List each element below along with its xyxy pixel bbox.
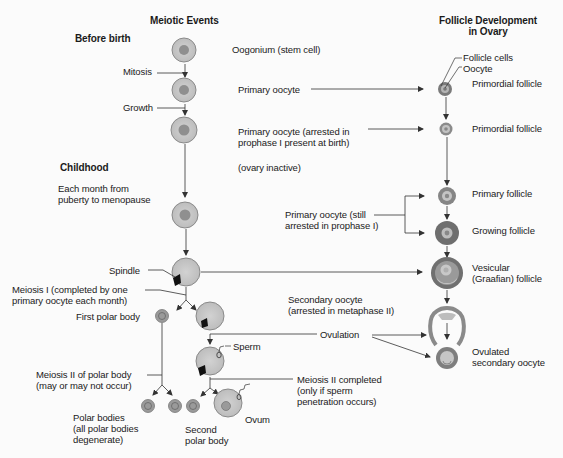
label-primary-oocyte-still-line1: Primary oocyte (still: [285, 209, 366, 220]
stage-childhood: Childhood: [60, 162, 109, 173]
label-meiosis1-line1: Meiosis I (completed by one: [12, 284, 128, 295]
primary-follicle-icon: [438, 187, 456, 205]
label-vesicular-line1: Vesicular: [472, 262, 510, 273]
label-primary-oocyte: Primary oocyte: [238, 84, 300, 95]
label-sperm: Sperm: [233, 341, 260, 352]
ovulated-secondary-oocyte-icon: [436, 347, 458, 369]
vesicular-follicle-icon: [431, 257, 463, 289]
sperm-penetrated-oocyte-icon: [196, 346, 224, 376]
label-ovum: Ovum: [245, 414, 270, 425]
label-meiosis2-completed-line2: (only if sperm: [297, 385, 353, 396]
label-ovulated-line1: Ovulated: [472, 346, 509, 357]
primary-oocyte-cell-icon: [172, 78, 196, 102]
primordial-follicle-icon: [438, 82, 452, 96]
secondary-oocyte-cell-icon: [196, 302, 224, 330]
label-primordial-follicle-1: Primordial follicle: [472, 78, 542, 89]
label-ovary-inactive: (ovary inactive): [238, 162, 301, 173]
stage-each-month-line2: puberty to menopause: [58, 194, 151, 205]
label-spindle: Spindle: [109, 265, 140, 276]
stage-each-month-line1: Each month from: [58, 183, 129, 194]
label-oocyte: Oocyte: [463, 63, 493, 74]
label-mitosis: Mitosis: [123, 66, 152, 77]
label-follicle-cells: Follicle cells: [463, 52, 513, 63]
polar-body-icon: [142, 400, 155, 413]
label-secondary-oocyte-line1: Secondary oocyte: [288, 294, 362, 305]
second-polar-body-icon: [187, 400, 200, 413]
label-oogonium: Oogonium (stem cell): [232, 44, 320, 55]
label-meiosis2-completed-line3: penetration occurs): [297, 396, 376, 407]
label-second-polar-body-line2: polar body: [185, 435, 228, 446]
label-meiosis2-polar-line1: Meiosis II of polar body: [36, 369, 131, 380]
label-second-polar-body-line1: Second: [185, 424, 217, 435]
label-first-polar-body: First polar body: [76, 311, 140, 322]
label-primordial-follicle-2: Primordial follicle: [472, 123, 542, 134]
label-meiosis2-completed-line1: Meiosis II completed: [297, 374, 382, 385]
label-polar-bodies-line1: Polar bodies: [73, 412, 125, 423]
polar-body-icon: [169, 400, 182, 413]
label-ovulated-line2: secondary oocyte: [472, 357, 545, 368]
label-ovulation: Ovulation: [320, 329, 359, 340]
label-growing-follicle: Growing follicle: [472, 225, 535, 236]
label-primary-follicle: Primary follicle: [472, 188, 532, 199]
follicle-development-header-line1: Follicle Development: [418, 15, 558, 26]
label-meiosis1-line2: primary oocyte each month): [12, 295, 127, 306]
meiotic-events-header: Meiotic Events: [150, 15, 219, 26]
spindle-cell-icon: [172, 258, 200, 286]
label-growth: Growth: [123, 102, 153, 113]
primary-oocyte-monthly-cell-icon: [172, 202, 198, 228]
label-primary-oocyte-arrested-line2: prophase I present at birth): [238, 137, 349, 148]
label-vesicular-line2: (Graafian) follicle: [472, 273, 542, 284]
ovum-cell-icon: [214, 384, 250, 417]
label-meiosis2-polar-line2: (may or may not occur): [36, 380, 131, 391]
growing-follicle-icon: [435, 221, 459, 245]
label-secondary-oocyte-line2: (arrested in metaphase II): [288, 305, 394, 316]
stage-before-birth: Before birth: [75, 33, 130, 44]
oogonium-cell-icon: [172, 38, 196, 62]
oogenesis-diagram: Meiotic Events Follicle Development in O…: [0, 0, 563, 458]
label-primary-oocyte-arrested-line1: Primary oocyte (arrested in: [238, 126, 349, 137]
first-polar-body-icon: [156, 310, 169, 323]
label-polar-bodies-line3: degenerate): [73, 434, 123, 445]
primary-oocyte-arrested-cell-icon: [171, 117, 197, 143]
follicle-development-header-line2: in Ovary: [418, 26, 558, 37]
label-primary-oocyte-still-line2: arrested in prophase I): [285, 220, 378, 231]
label-polar-bodies-line2: (all polar bodies: [73, 423, 138, 434]
primordial-follicle-icon: [440, 123, 453, 136]
